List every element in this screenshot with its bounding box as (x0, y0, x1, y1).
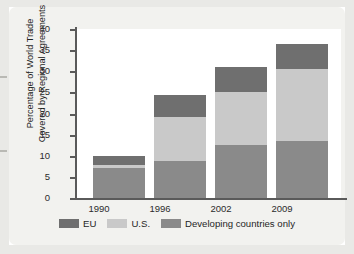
bar-group-1990[interactable] (93, 156, 145, 198)
y-tick-label-30: 30 (26, 66, 50, 76)
scan-edge-top (0, 0, 354, 7)
bar-segment-2002-eu (215, 67, 267, 92)
y-tick-label-5: 5 (26, 172, 50, 182)
legend-label-developing: Developing countries only (185, 218, 295, 229)
y-tick-label-15: 15 (26, 130, 50, 140)
y-tick-label-0: 0 (26, 193, 50, 203)
legend-label-eu: EU (83, 218, 96, 229)
bar-group-2009[interactable] (276, 44, 328, 198)
scan-edge-left (0, 0, 9, 254)
bar-segment-1996-eu (154, 95, 206, 117)
legend-item-developing[interactable]: Developing countries only (161, 218, 295, 229)
bar-segment-2009-eu (276, 44, 328, 69)
chart-legend: EU U.S. Developing countries only (0, 218, 354, 229)
scan-edge-bottom (0, 245, 354, 254)
legend-item-us[interactable]: U.S. (107, 218, 150, 229)
bar-segment-2009-developing (276, 141, 328, 198)
y-axis-line (75, 27, 77, 200)
scan-edge-right (345, 0, 354, 254)
crop-mark-upper (0, 76, 7, 78)
y-tick-label-25: 25 (26, 87, 50, 97)
x-tick-label-2009: 2009 (252, 203, 312, 214)
x-tick-label-1990: 1990 (69, 203, 129, 214)
crop-mark-lower (0, 150, 7, 152)
y-tick-label-35: 35 (26, 45, 50, 55)
legend-swatch-us-icon (107, 219, 127, 228)
bar-segment-2009-us (276, 69, 328, 141)
bar-segment-1996-us (154, 117, 206, 161)
bar-segment-1990-developing (93, 168, 145, 198)
bar-group-2002[interactable] (215, 67, 267, 198)
legend-label-us: U.S. (131, 218, 150, 229)
chart-figure: Percentage of World Trade Covered by Reg… (0, 0, 354, 254)
x-axis-line (75, 198, 347, 200)
x-tick-label-1996: 1996 (130, 203, 190, 214)
y-tick-label-10: 10 (26, 151, 50, 161)
bar-segment-1990-us (93, 165, 145, 168)
legend-item-eu[interactable]: EU (59, 218, 96, 229)
y-tick-label-20: 20 (26, 109, 50, 119)
bar-segment-1996-developing (154, 161, 206, 198)
plot-area (76, 29, 341, 198)
legend-swatch-eu-icon (59, 219, 79, 228)
chart-panel: Percentage of World Trade Covered by Reg… (9, 7, 345, 245)
x-tick-label-2002: 2002 (191, 203, 251, 214)
y-tick-label-40: 40 (26, 24, 50, 34)
bar-segment-2002-developing (215, 145, 267, 198)
bar-segment-2002-us (215, 92, 267, 145)
bar-segment-1990-eu (93, 156, 145, 166)
bar-group-1996[interactable] (154, 95, 206, 198)
legend-swatch-developing-icon (161, 219, 181, 228)
